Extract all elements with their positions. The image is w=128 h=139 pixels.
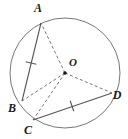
radius-OB-line bbox=[22, 73, 65, 101]
point-label-B: B bbox=[7, 101, 16, 115]
center-point-dot bbox=[63, 71, 67, 75]
geometry-figure: A B C D O bbox=[0, 0, 128, 139]
center-label-O: O bbox=[69, 56, 77, 68]
point-label-D: D bbox=[112, 88, 122, 102]
radius-OD-line bbox=[65, 73, 112, 93]
point-label-A: A bbox=[33, 1, 42, 15]
geometry-canvas: A B C D O bbox=[0, 0, 128, 139]
radius-OA-line bbox=[41, 23, 65, 73]
point-label-C: C bbox=[24, 123, 33, 137]
radius-OC-line bbox=[33, 73, 65, 120]
